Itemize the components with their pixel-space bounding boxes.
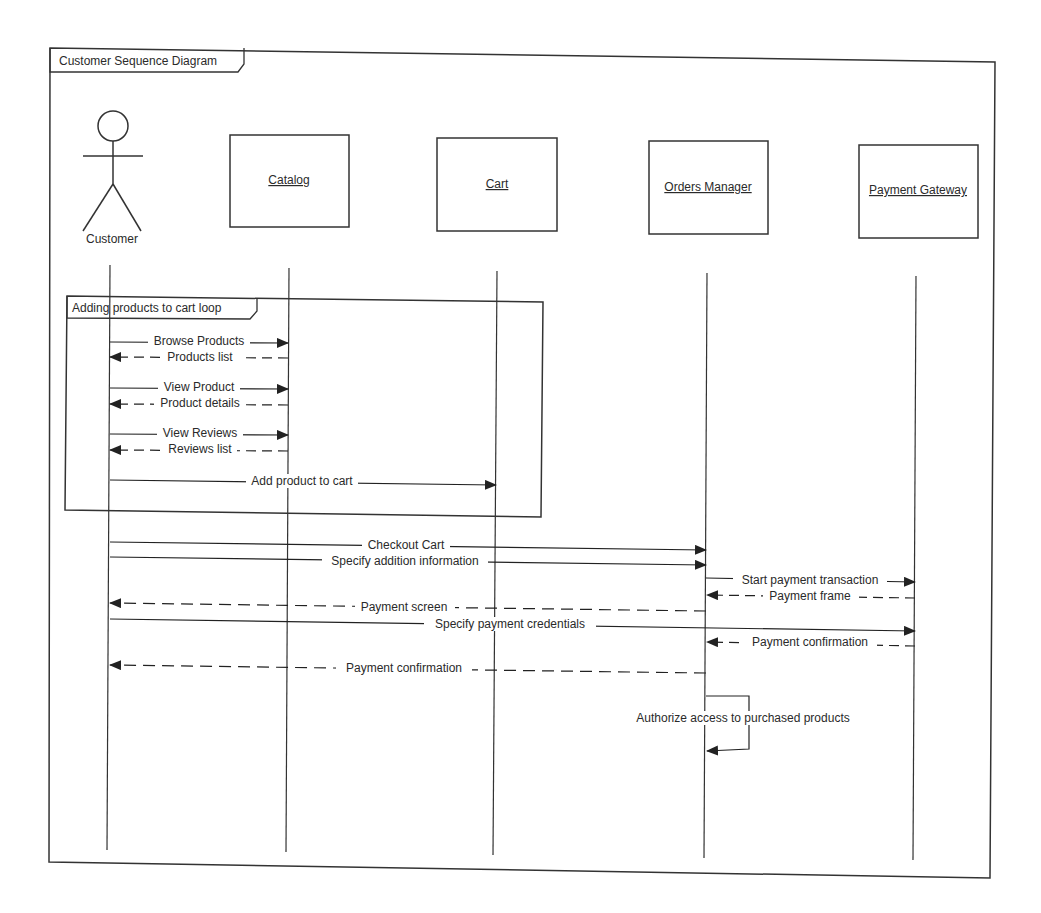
- message-product-details: Product details: [110, 396, 288, 410]
- svg-text:View Reviews: View Reviews: [163, 426, 237, 440]
- svg-text:Payment screen: Payment screen: [361, 600, 448, 614]
- lifeline-catalog: [286, 268, 289, 852]
- frame-title: Customer Sequence Diagram: [59, 54, 217, 68]
- message-payment-confirmation-customer: Payment confirmation: [110, 661, 706, 675]
- participant-cart[interactable]: Cart: [437, 138, 557, 231]
- message-payment-frame: Payment frame: [707, 589, 915, 603]
- svg-text:Payment frame: Payment frame: [769, 589, 851, 603]
- messages: Browse Products Products list View Produ…: [110, 334, 915, 751]
- message-view-reviews: View Reviews: [110, 426, 288, 440]
- svg-text:Browse Products: Browse Products: [154, 334, 245, 348]
- message-reviews-list: Reviews list: [110, 442, 288, 456]
- sequence-diagram: Customer Sequence Diagram Customer Catal…: [0, 0, 1041, 913]
- participant-label-orders-manager: Orders Manager: [664, 180, 751, 194]
- message-browse-products: Browse Products: [110, 334, 288, 348]
- loop-label: Adding products to cart loop: [72, 301, 222, 315]
- participant-payment-gateway[interactable]: Payment Gateway: [859, 145, 978, 238]
- svg-text:Reviews list: Reviews list: [168, 442, 232, 456]
- message-start-payment-transaction: Start payment transaction: [706, 573, 915, 587]
- message-products-list: Products list: [110, 350, 288, 364]
- actor-head-icon: [98, 111, 128, 141]
- svg-text:Payment confirmation: Payment confirmation: [346, 661, 462, 675]
- participant-catalog[interactable]: Catalog: [230, 135, 349, 227]
- participant-label-customer: Customer: [86, 232, 138, 246]
- svg-text:Start payment transaction: Start payment transaction: [742, 573, 879, 587]
- svg-text:Add product to cart: Add product to cart: [251, 474, 353, 488]
- self-message-authorize-access: Authorize access to purchased products: [628, 696, 858, 751]
- svg-text:Authorize access to purchased: Authorize access to purchased products: [636, 711, 849, 725]
- svg-text:Products list: Products list: [167, 350, 233, 364]
- svg-text:Specify addition information: Specify addition information: [331, 554, 478, 568]
- message-payment-confirmation-gateway: Payment confirmation: [707, 635, 915, 649]
- lifeline-cart: [493, 271, 497, 855]
- message-checkout-cart: Checkout Cart: [110, 538, 706, 552]
- message-add-product-to-cart: Add product to cart: [110, 474, 496, 488]
- actor-customer[interactable]: Customer: [83, 111, 143, 246]
- svg-text:Specify payment credentials: Specify payment credentials: [435, 617, 585, 631]
- message-specify-addition-information: Specify addition information: [110, 554, 706, 568]
- participant-label-payment-gateway: Payment Gateway: [869, 183, 967, 197]
- svg-text:Payment confirmation: Payment confirmation: [752, 635, 868, 649]
- message-view-product: View Product: [110, 380, 288, 394]
- lifeline-customer: [107, 265, 110, 850]
- message-payment-screen: Payment screen: [110, 600, 706, 614]
- lifeline-payment-gateway: [913, 276, 916, 860]
- participant-label-cart: Cart: [486, 177, 509, 191]
- participant-label-catalog: Catalog: [268, 173, 309, 187]
- participant-orders-manager[interactable]: Orders Manager: [649, 141, 768, 234]
- svg-text:Product details: Product details: [160, 396, 239, 410]
- svg-text:Checkout Cart: Checkout Cart: [368, 538, 445, 552]
- svg-text:View Product: View Product: [164, 380, 235, 394]
- message-specify-payment-credentials: Specify payment credentials: [110, 617, 915, 631]
